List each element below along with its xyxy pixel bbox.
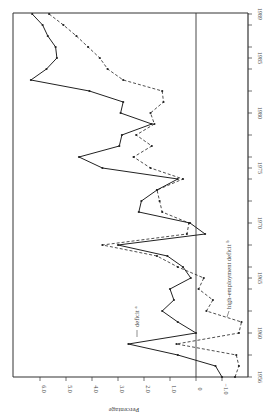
deficit-point bbox=[173, 299, 175, 301]
high-employment-deficit-point bbox=[156, 255, 158, 257]
deficit-point bbox=[120, 112, 122, 114]
axis-title-percentage: Percentage bbox=[109, 406, 140, 414]
deficit-point bbox=[118, 145, 120, 147]
high-employment-deficit-point bbox=[212, 299, 214, 301]
year-tick-label: 1970 bbox=[257, 217, 263, 229]
year-tick-label: 1960 bbox=[257, 327, 263, 339]
high-employment-deficit-line bbox=[49, 14, 241, 377]
deficit-point bbox=[177, 178, 179, 180]
high-employment-deficit-point bbox=[159, 200, 161, 202]
deficit-point bbox=[30, 79, 32, 81]
deficit-point bbox=[161, 310, 163, 312]
value-tick-label: −1.0 bbox=[223, 384, 229, 395]
high-employment-deficit-point bbox=[122, 79, 124, 81]
high-employment-deficit-point bbox=[75, 35, 77, 37]
high-employment-deficit-point bbox=[238, 365, 240, 367]
high-employment-deficit-point bbox=[188, 222, 190, 224]
high-employment-deficit-point bbox=[235, 354, 237, 356]
deficit-point bbox=[204, 233, 206, 235]
deficit-label: deficita bbox=[133, 306, 140, 327]
high-employment-deficit-point bbox=[203, 277, 205, 279]
deficit-chart: 19561960196519701975198019851989 6.05.04… bbox=[0, 0, 272, 418]
deficit-line bbox=[31, 14, 222, 377]
high-employment-deficit-point bbox=[149, 167, 151, 169]
high-employment-deficit-point bbox=[151, 145, 153, 147]
deficit-point bbox=[78, 156, 80, 158]
value-tick-label: 5.0 bbox=[67, 385, 73, 393]
deficit-point bbox=[88, 90, 90, 92]
high-employment-deficit-point bbox=[238, 332, 240, 334]
high-employment-deficit-point bbox=[99, 57, 101, 59]
high-employment-deficit-point bbox=[135, 134, 137, 136]
hed-leader-line bbox=[227, 311, 229, 317]
high-employment-deficit-point bbox=[240, 321, 242, 323]
deficit-point bbox=[42, 24, 44, 26]
value-tick-label: 1.0 bbox=[171, 385, 177, 393]
deficit-point bbox=[122, 101, 124, 103]
high-employment-deficit-point bbox=[149, 112, 151, 114]
high-employment-deficit-point bbox=[186, 233, 188, 235]
year-tick-label: 1965 bbox=[257, 272, 263, 284]
deficit-point bbox=[169, 288, 171, 290]
high-employment-deficit-point bbox=[177, 266, 179, 268]
deficit-point bbox=[166, 255, 168, 257]
high-employment-deficit-point bbox=[161, 211, 163, 213]
deficit-point bbox=[31, 13, 33, 15]
high-employment-deficit-point bbox=[107, 68, 109, 70]
high-employment-deficit-point bbox=[62, 24, 64, 26]
deficit-point bbox=[195, 332, 197, 334]
value-tick-label: 0 bbox=[197, 388, 203, 391]
deficit-point bbox=[177, 354, 179, 356]
year-tick-label: 1985 bbox=[257, 52, 263, 64]
high-employment-deficit-point bbox=[156, 189, 158, 191]
deficit-point bbox=[47, 35, 49, 37]
value-tick-label: 3.0 bbox=[119, 385, 125, 393]
deficit-point bbox=[45, 68, 47, 70]
high-employment-deficit-point bbox=[161, 90, 163, 92]
high-employment-deficit-point bbox=[153, 123, 155, 125]
deficit-point bbox=[214, 365, 216, 367]
high-employment-deficit-label: high-employment deficitb bbox=[225, 240, 232, 309]
high-employment-deficit-point bbox=[175, 343, 177, 345]
deficit-point bbox=[182, 266, 184, 268]
deficit-point bbox=[117, 244, 119, 246]
year-tick-label: 1980 bbox=[257, 107, 263, 119]
high-employment-deficit-point bbox=[133, 156, 135, 158]
high-employment-deficit-point bbox=[101, 244, 103, 246]
deficit-point bbox=[127, 343, 129, 345]
deficit-point bbox=[177, 321, 179, 323]
value-tick-label: 2.0 bbox=[145, 385, 151, 393]
value-tick-label: 4.0 bbox=[93, 385, 99, 393]
high-employment-deficit-point bbox=[234, 376, 236, 378]
high-employment-deficit-point bbox=[162, 101, 164, 103]
deficit-point bbox=[121, 134, 123, 136]
high-employment-deficit-label-group: high-employment deficitb bbox=[225, 240, 232, 317]
deficit-label-group: deficita bbox=[133, 306, 140, 337]
deficit-point bbox=[190, 277, 192, 279]
high-employment-deficit-point bbox=[182, 178, 184, 180]
deficit-point bbox=[101, 167, 103, 169]
high-employment-deficit-point bbox=[205, 310, 207, 312]
high-employment-deficit-point bbox=[198, 288, 200, 290]
deficit-point bbox=[56, 57, 58, 59]
high-employment-deficit-point bbox=[87, 46, 89, 48]
deficit-point bbox=[140, 200, 142, 202]
deficit-point bbox=[55, 46, 57, 48]
value-tick-label: 6.0 bbox=[41, 385, 47, 393]
year-tick-label: 1989 bbox=[257, 8, 263, 20]
high-employment-deficit-point bbox=[48, 13, 50, 15]
deficit-point bbox=[138, 211, 140, 213]
value-axis-ticks: 6.05.04.03.02.01.00−1.0 bbox=[40, 377, 229, 394]
year-tick-label: 1975 bbox=[257, 162, 263, 174]
deficit-point bbox=[221, 376, 223, 378]
year-axis-ticks: 19561960196519701975198019851989 bbox=[248, 8, 263, 383]
year-tick-label: 1956 bbox=[257, 371, 263, 383]
